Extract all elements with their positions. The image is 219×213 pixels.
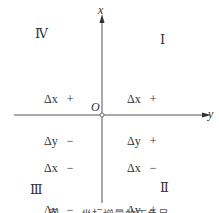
quadrant-ii-signs: Δx − Δy +: [127, 133, 157, 213]
dx-symbol: Δx: [44, 161, 58, 175]
dx-symbol: Δx: [44, 92, 58, 106]
dx-sign: +: [150, 92, 157, 106]
quadrant-ii-label: Ⅱ: [160, 180, 168, 196]
quadrant-i-label: Ⅰ: [160, 32, 164, 48]
quadrant-iii-label: Ⅲ: [30, 182, 42, 198]
quadrant-iv-label: Ⅳ: [35, 26, 47, 42]
dx-sign: −: [150, 161, 157, 175]
dx-symbol: Δx: [127, 92, 141, 106]
dx-sign: −: [67, 161, 74, 175]
dx-symbol: Δx: [127, 161, 141, 175]
y-axis-label: y: [208, 107, 213, 122]
quadrant-iii-signs: Δx − Δy −: [44, 133, 74, 213]
figure-caption: 图 · · · 坐标增量的正负号: [48, 206, 169, 213]
dx-sign: +: [67, 92, 74, 106]
origin-label: O: [91, 100, 100, 115]
x-axis-label: x: [98, 3, 103, 18]
origin-point-icon: [100, 113, 104, 117]
